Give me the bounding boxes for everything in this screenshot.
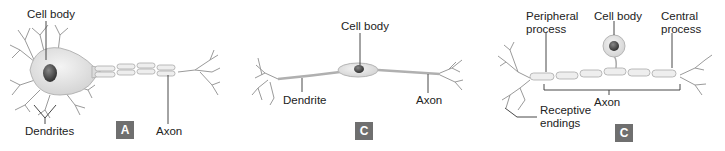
label-dendrite: Dendrite: [283, 94, 326, 107]
label-cell-body: Cell body: [594, 10, 642, 23]
label-peripheral-process-line1: Peripheral: [526, 10, 578, 23]
label-central-process-line2: process: [661, 23, 701, 36]
label-axon: Axon: [416, 94, 442, 107]
label-central-process-line1: Central: [661, 10, 698, 23]
panel-badge-b: C: [355, 122, 373, 140]
label-receptive-endings-line2: endings: [540, 117, 580, 130]
label-peripheral-process-line2: process: [526, 23, 566, 36]
panel-badge-a: A: [116, 121, 134, 139]
label-cell-body: Cell body: [341, 20, 389, 33]
label-axon: Axon: [156, 125, 182, 138]
panel-badge-c: C: [615, 124, 633, 142]
label-receptive-endings-line1: Receptive: [540, 104, 591, 117]
label-cell-body: Cell body: [27, 8, 75, 21]
label-dendrites: Dendrites: [25, 125, 74, 138]
label-axon: Axon: [594, 96, 620, 109]
